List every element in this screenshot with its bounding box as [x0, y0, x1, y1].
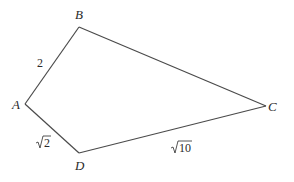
edge-label-da: 2: [36, 136, 51, 150]
vertex-label-d: D: [74, 158, 85, 173]
vertex-label-b: B: [75, 7, 83, 22]
quadrilateral-diagram: B A D C 2 2 10: [0, 0, 294, 182]
edge-label-ab: 2: [37, 56, 43, 70]
edge-label-cd: 10: [171, 141, 192, 155]
edge-ab: [25, 27, 79, 104]
edge-da: [25, 104, 79, 153]
edge-label-cd-radicand: 10: [179, 141, 191, 155]
edge-cd: [79, 106, 266, 153]
vertex-label-a: A: [11, 97, 20, 112]
edge-bc: [79, 27, 266, 106]
edge-label-da-radicand: 2: [44, 136, 50, 150]
vertex-label-c: C: [268, 99, 277, 114]
